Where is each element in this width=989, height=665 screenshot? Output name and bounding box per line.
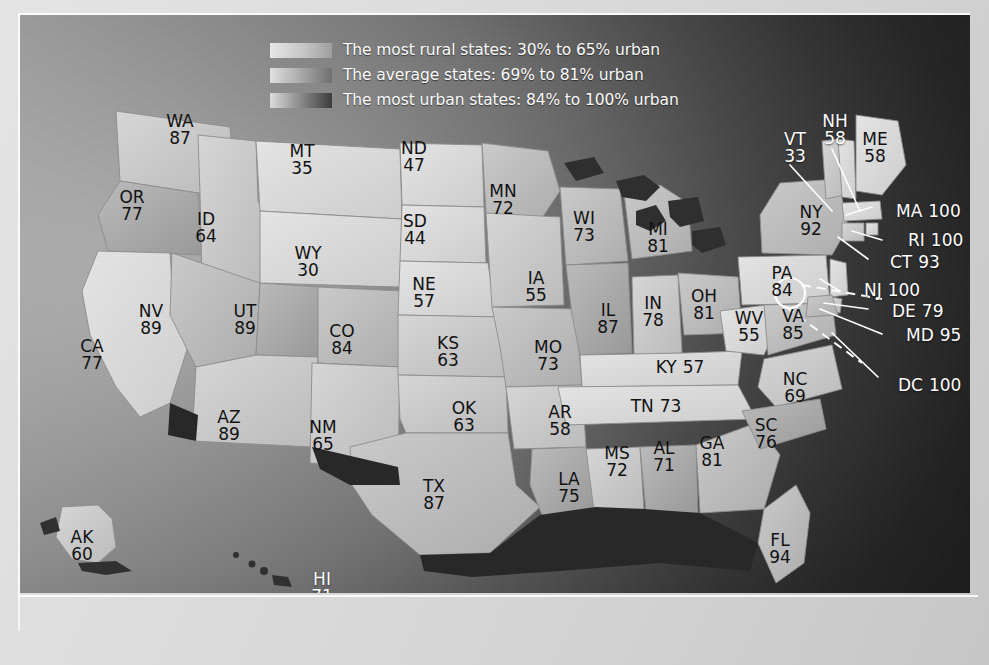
map-plate: The most rural states: 30% to 65% urban … bbox=[20, 15, 970, 593]
legend-item: The most rural states: 30% to 65% urban bbox=[270, 39, 679, 61]
scanned-map-page: The most rural states: 30% to 65% urban … bbox=[0, 0, 989, 665]
legend-label: The most rural states: 30% to 65% urban bbox=[343, 41, 660, 59]
page-trim-line-left bbox=[18, 595, 20, 631]
urban-gradient-swatch bbox=[270, 93, 332, 108]
page-trim-line-bottom bbox=[18, 595, 978, 597]
legend: The most rural states: 30% to 65% urban … bbox=[270, 39, 679, 111]
legend-label: The average states: 69% to 81% urban bbox=[343, 66, 644, 84]
rural-gradient-swatch bbox=[270, 43, 332, 58]
legend-item: The most urban states: 84% to 100% urban bbox=[270, 89, 679, 111]
legend-label: The most urban states: 84% to 100% urban bbox=[343, 91, 679, 109]
average-gradient-swatch bbox=[270, 68, 332, 83]
legend-item: The average states: 69% to 81% urban bbox=[270, 64, 679, 86]
